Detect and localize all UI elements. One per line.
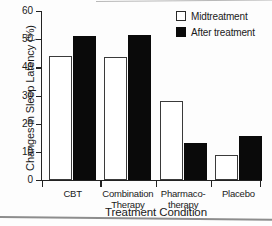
bar-midtreatment-1 xyxy=(104,57,127,180)
category-label-0: CBT xyxy=(45,188,100,199)
category-label-1: Combination Therapy xyxy=(100,188,155,210)
legend-label-0: Midtreatment xyxy=(191,11,248,22)
bar-after-treatment-2 xyxy=(184,143,207,180)
y-tick-50: 50 xyxy=(36,39,42,40)
bar-midtreatment-3 xyxy=(215,155,238,180)
bar-after-treatment-0 xyxy=(73,36,96,180)
x-tick-0 xyxy=(42,181,43,187)
filled-square-swatch xyxy=(176,27,186,37)
legend-item-after-treatment: After treatment xyxy=(176,25,272,39)
y-tick-20: 20 xyxy=(36,124,42,125)
x-axis-line xyxy=(41,180,262,181)
y-tick-label-10: 10 xyxy=(22,146,33,157)
category-label-3: Placebo xyxy=(211,188,266,199)
y-tick-60: 60 xyxy=(36,11,42,12)
legend-item-midtreatment: Midtreatment xyxy=(176,9,272,23)
bar-after-treatment-1 xyxy=(128,35,151,180)
y-tick-label-60: 60 xyxy=(22,5,33,16)
y-tick-10: 10 xyxy=(36,152,42,153)
y-tick-30: 30 xyxy=(36,96,42,97)
legend-label-1: After treatment xyxy=(191,27,255,38)
y-tick-label-20: 20 xyxy=(22,118,33,129)
y-tick-label-50: 50 xyxy=(22,33,33,44)
category-label-2: Pharmaco- therapy xyxy=(156,188,211,210)
x-tick-1 xyxy=(100,181,101,187)
y-tick-label-0: 0 xyxy=(27,174,33,185)
bar-midtreatment-2 xyxy=(160,101,183,180)
bar-midtreatment-0 xyxy=(49,56,72,180)
y-tick-label-30: 30 xyxy=(22,90,33,101)
bar-chart-figure: Changes in Sleep Latency (%) Treatment C… xyxy=(0,0,272,226)
scan-artifact-line-top xyxy=(96,0,272,2)
y-tick-label-40: 40 xyxy=(22,61,33,72)
chart-legend: MidtreatmentAfter treatment xyxy=(176,9,272,41)
y-tick-40: 40 xyxy=(36,67,42,68)
x-tick-4 xyxy=(260,181,261,187)
x-tick-2 xyxy=(156,181,157,187)
x-tick-3 xyxy=(211,181,212,187)
open-square-swatch xyxy=(176,11,186,21)
bar-after-treatment-3 xyxy=(239,136,262,180)
